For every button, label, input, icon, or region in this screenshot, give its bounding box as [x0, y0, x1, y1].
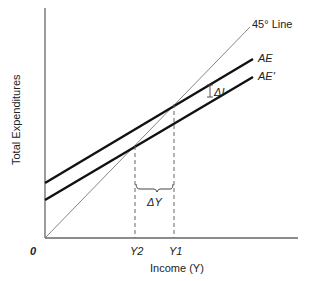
- ae-label: AE: [257, 52, 273, 64]
- ae-prime-label: AE': [257, 70, 276, 82]
- diagram-canvas: 45° Line AE AE' ΔI ΔY 0 Y2 Y1 Income (Y)…: [0, 0, 309, 281]
- x-axis-label: Income (Y): [150, 262, 204, 274]
- delta-i-label: ΔI: [213, 86, 224, 98]
- y-axis-label: Total Expenditures: [10, 74, 22, 165]
- origin-label: 0: [30, 245, 37, 257]
- ae-line: [45, 59, 253, 183]
- delta-y-label: ΔY: [146, 196, 162, 208]
- y2-tick-label: Y2: [130, 245, 143, 257]
- y1-tick-label: Y1: [169, 245, 182, 257]
- delta-y-bracket: [136, 184, 173, 192]
- forty-five-line-label: 45° Line: [252, 18, 293, 30]
